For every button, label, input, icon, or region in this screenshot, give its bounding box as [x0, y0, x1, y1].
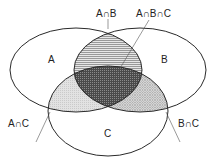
venn-diagram: A B C A∩B A∩B∩C A∩C B∩C [0, 0, 216, 160]
label-a-and-b: A∩B [96, 8, 117, 19]
label-b-and-c: B∩C [178, 118, 199, 129]
set-b-label: B [161, 54, 168, 65]
set-c-label: C [104, 128, 111, 139]
set-a-label: A [48, 54, 55, 65]
label-a-and-b-and-c: A∩B∩C [136, 8, 171, 19]
leader-a-and-c [36, 112, 50, 142]
label-a-and-c: A∩C [8, 118, 29, 129]
